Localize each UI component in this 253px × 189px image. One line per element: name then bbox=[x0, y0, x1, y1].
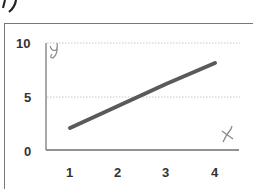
xtick-4: 4 bbox=[211, 165, 219, 180]
xtick-3: 3 bbox=[162, 165, 169, 180]
line-chart: 10 5 0 1 2 3 4 bbox=[0, 0, 253, 189]
xtick-2: 2 bbox=[114, 165, 121, 180]
xtick-1: 1 bbox=[66, 165, 73, 180]
handwritten-x-label bbox=[222, 126, 233, 142]
ytick-10: 10 bbox=[16, 36, 30, 51]
ytick-0: 0 bbox=[24, 144, 31, 159]
ytick-5: 5 bbox=[24, 90, 31, 105]
data-line bbox=[70, 63, 215, 128]
handwritten-y-label bbox=[50, 43, 57, 58]
